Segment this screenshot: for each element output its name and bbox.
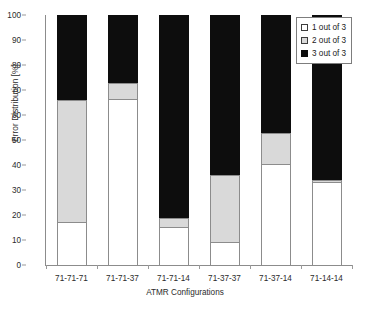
y-axis-tick-label: 70 [12,86,21,95]
bar-segment[interactable] [108,83,138,101]
y-axis-tick-mark [22,190,26,191]
bar-stack[interactable] [210,15,240,265]
y-axis-tick-mark [22,265,26,266]
bar-segment[interactable] [159,228,189,266]
bar-segment[interactable] [312,183,342,266]
bar-segment[interactable] [159,218,189,228]
x-axis-tick-mark [199,265,200,269]
legend-item-label: 3 out of 3 [312,49,346,58]
bar-segment[interactable] [57,100,87,223]
x-axis-tick-label: 71-14-14 [289,274,365,283]
y-axis-tick-mark [22,240,26,241]
y-axis-tick-mark [22,65,26,66]
x-axis-tick-mark [46,265,47,269]
y-axis-tick-label: 30 [12,186,21,195]
x-axis-tick-mark [352,265,353,269]
y-axis-tick-label: 40 [12,161,21,170]
y-axis-tick-mark [22,215,26,216]
y-axis-tick-mark [22,115,26,116]
chart-legend: 1 out of 3 2 out of 3 3 out of 3 [296,17,352,64]
bar-segment[interactable] [210,175,240,243]
x-axis-tick-mark [97,265,98,269]
bar-stack[interactable] [261,15,291,265]
x-axis-tick-mark [250,265,251,269]
y-axis-tick-mark [22,140,26,141]
bar-stack[interactable] [108,15,138,265]
gray-square-icon [301,37,308,44]
y-axis-tick-mark [22,165,26,166]
bar-segment[interactable] [312,180,342,183]
y-axis-tick-label: 50 [12,136,21,145]
y-axis-tick-mark [22,90,26,91]
x-axis-tick-mark [301,265,302,269]
y-axis-tick-label: 100 [7,11,21,20]
y-axis-tick-label: 60 [12,111,21,120]
y-axis-tick-mark [22,15,26,16]
x-axis-title: ATMR Configurations [0,288,370,297]
legend-item-label: 1 out of 3 [312,23,346,32]
bar-segment[interactable] [210,15,240,175]
y-axis-tick-label: 80 [12,61,21,70]
black-square-icon [301,50,308,57]
y-axis-tick-labels: 0102030405060708090100 [0,0,46,314]
y-axis-tick-label: 10 [12,236,21,245]
bar-segment[interactable] [261,133,291,166]
bar-segment[interactable] [159,15,189,218]
y-axis-tick-label: 0 [16,261,21,270]
legend-item[interactable]: 1 out of 3 [301,21,346,34]
y-axis-tick-label: 20 [12,211,21,220]
bar-segment[interactable] [261,165,291,265]
bar-segment[interactable] [57,15,87,100]
bar-stack[interactable] [57,15,87,265]
y-axis-tick-label: 90 [12,36,21,45]
bar-stack[interactable] [159,15,189,265]
chart-container: Error Distribution [%] 01020304050607080… [0,0,370,314]
legend-item[interactable]: 3 out of 3 [301,47,346,60]
bar-segment[interactable] [57,223,87,266]
white-square-icon [301,24,308,31]
x-axis-tick-mark [148,265,149,269]
bar-segment[interactable] [108,15,138,83]
bar-segment[interactable] [210,243,240,266]
legend-item-label: 2 out of 3 [312,36,346,45]
y-axis-tick-mark [22,40,26,41]
legend-item[interactable]: 2 out of 3 [301,34,346,47]
bar-segment[interactable] [108,100,138,265]
bar-segment[interactable] [261,15,291,133]
